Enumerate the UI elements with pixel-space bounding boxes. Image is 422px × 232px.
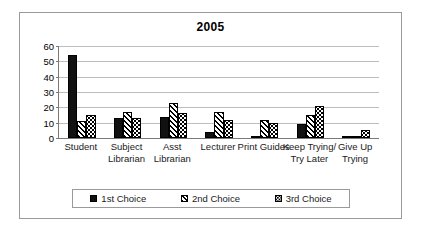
chart-legend: 1st Choice2nd Choice3rd Choice [72,189,350,208]
legend-label: 2nd Choice [192,193,240,204]
y-tick-label-60: 60 [28,42,54,51]
y-tick-label-10: 10 [28,118,54,127]
bar [86,115,95,138]
bar [132,118,141,138]
y-tick-label-0: 0 [28,134,54,143]
y-tick-label-40: 40 [28,72,54,81]
bar [352,136,361,138]
bar [342,136,351,138]
y-axis-tick-labels: 0102030405060 [28,46,54,138]
bar [178,113,187,138]
plot-area [58,46,379,139]
bar [205,132,214,138]
bar [297,124,306,138]
legend-label: 1st Choice [101,193,146,204]
bar [160,117,169,138]
bar [361,130,370,138]
bar [260,120,269,138]
bar-group [288,46,334,138]
bar [169,103,178,138]
bar [214,112,223,138]
bars-layer [59,46,379,138]
legend-label: 3rd Choice [286,193,332,204]
bar-group [59,46,105,138]
bar-group [196,46,242,138]
bar [123,112,132,138]
bar [114,118,123,138]
bar [224,120,233,138]
bar-group [242,46,288,138]
x-axis-label: Give Up Trying [327,141,384,164]
legend-swatch-icon [90,195,97,202]
y-tick-label-20: 20 [28,103,54,112]
y-tick-label-50: 50 [28,57,54,66]
bar-group [150,46,196,138]
x-axis-category-labels: StudentSubject LibrarianAsst LibrarianLe… [58,141,378,187]
bar-group [105,46,151,138]
legend-swatch-icon [275,195,282,202]
bar [315,106,324,138]
bar [251,136,260,138]
legend-item[interactable]: 2nd Choice [181,193,240,204]
bar [77,121,86,138]
bar [269,123,278,138]
legend-swatch-icon [181,195,188,202]
y-tickmark-0 [56,138,59,139]
bar [68,55,77,138]
y-tick-label-30: 30 [28,88,54,97]
bar-group [333,46,379,138]
plot-wrapper: 0102030405060 StudentSubject LibrarianAs… [20,13,403,220]
bar [306,115,315,138]
legend-item[interactable]: 3rd Choice [275,193,332,204]
chart-container: 2005 0102030405060 StudentSubject Librar… [19,12,402,219]
legend-item[interactable]: 1st Choice [90,193,146,204]
